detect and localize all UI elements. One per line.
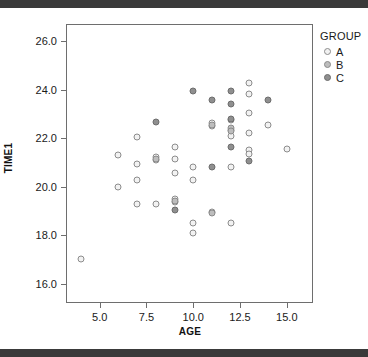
- data-point-group-a: [134, 200, 141, 207]
- data-point-group-a: [134, 133, 141, 140]
- legend-marker-icon: [324, 61, 331, 68]
- x-axis-title: AGE: [179, 326, 201, 337]
- data-point-group-a: [190, 229, 197, 236]
- data-point-group-c: [227, 101, 234, 108]
- data-point-group-a: [265, 121, 272, 128]
- legend-item-c[interactable]: C: [324, 71, 361, 84]
- data-point-group-c: [190, 87, 197, 94]
- y-axis: 26.024.022.020.018.016.0: [0, 8, 66, 319]
- legend-marker-icon: [324, 74, 331, 81]
- data-point-group-a: [190, 219, 197, 226]
- legend-item-label: C: [336, 72, 344, 84]
- x-tick-label: 7.5: [139, 311, 154, 323]
- x-tick-label: 15.0: [276, 311, 297, 323]
- data-point-group-a: [115, 183, 122, 190]
- plot-area: [66, 24, 313, 303]
- legend-item-label: A: [336, 46, 343, 58]
- data-point-group-a: [171, 155, 178, 162]
- x-tick: [287, 303, 288, 308]
- legend-entries: ABC: [320, 45, 361, 84]
- data-point-group-c: [265, 97, 272, 104]
- window-bottom-band: [0, 349, 368, 357]
- data-point-group-a: [227, 164, 234, 171]
- data-point-group-a: [77, 256, 84, 263]
- data-point-group-c: [227, 115, 234, 122]
- data-point-group-a: [115, 152, 122, 159]
- data-point-group-a: [246, 80, 253, 87]
- x-tick: [240, 303, 241, 308]
- window-top-band: [0, 0, 368, 8]
- y-tick-label: 18.0: [36, 229, 57, 241]
- data-point-group-a: [134, 160, 141, 167]
- legend: GROUP ABC: [320, 30, 361, 84]
- data-point-group-c: [208, 164, 215, 171]
- data-point-group-b: [152, 155, 159, 162]
- data-point-group-c: [171, 206, 178, 213]
- chart-canvas: TIME1 26.024.022.020.018.016.0 5.07.510.…: [0, 8, 368, 349]
- data-point-group-b: [208, 210, 215, 217]
- data-point-group-b: [171, 198, 178, 205]
- y-tick-label: 24.0: [36, 84, 57, 96]
- data-point-group-b: [208, 121, 215, 128]
- data-point-group-b: [227, 127, 234, 134]
- data-point-group-a: [227, 219, 234, 226]
- y-tick-label: 22.0: [36, 132, 57, 144]
- y-tick-label: 16.0: [36, 278, 57, 290]
- data-point-group-a: [171, 143, 178, 150]
- data-point-group-c: [152, 119, 159, 126]
- legend-title: GROUP: [320, 30, 361, 42]
- data-point-group-c: [246, 158, 253, 165]
- data-point-group-a: [190, 177, 197, 184]
- data-point-group-a: [190, 164, 197, 171]
- legend-item-a[interactable]: A: [324, 45, 361, 58]
- x-tick-label: 12.5: [229, 311, 250, 323]
- data-point-group-c: [227, 87, 234, 94]
- legend-marker-icon: [324, 48, 331, 55]
- x-tick: [146, 303, 147, 308]
- x-tick-label: 5.0: [92, 311, 107, 323]
- legend-item-b[interactable]: B: [324, 58, 361, 71]
- data-point-group-c: [208, 97, 215, 104]
- data-point-group-a: [152, 200, 159, 207]
- data-point-group-a: [283, 145, 290, 152]
- y-tick-label: 20.0: [36, 181, 57, 193]
- x-tick-label: 10.0: [183, 311, 204, 323]
- data-point-group-a: [171, 170, 178, 177]
- data-point-group-a: [246, 91, 253, 98]
- x-tick: [100, 303, 101, 308]
- data-point-group-a: [246, 150, 253, 157]
- x-tick: [193, 303, 194, 308]
- data-point-group-c: [227, 143, 234, 150]
- legend-item-label: B: [336, 59, 343, 71]
- data-point-group-a: [134, 177, 141, 184]
- y-tick-label: 26.0: [36, 35, 57, 47]
- data-point-group-a: [246, 130, 253, 137]
- data-point-group-a: [246, 109, 253, 116]
